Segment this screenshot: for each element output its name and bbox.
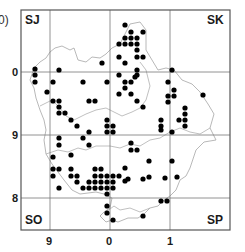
record-dot [182,117,187,122]
record-dot [110,173,115,178]
record-dot [122,41,127,46]
record-dot [80,135,85,140]
record-dot [110,179,115,184]
record-dot [92,185,97,190]
record-dot [140,54,145,59]
record-dot [92,98,97,103]
record-dot [134,35,139,40]
record-dot [56,135,61,140]
record-dot [98,179,103,184]
record-dot [92,166,97,171]
record-dot [50,173,55,178]
record-dot [165,99,170,104]
inner-boundary [46,128,210,154]
record-dot [116,91,121,96]
record-dot [68,166,73,171]
x-axis-label-9: 9 [46,235,52,247]
record-dot [104,185,109,190]
record-dot [50,166,55,171]
record-dot [116,41,121,46]
partial-label: 0) [0,13,9,27]
record-dot [140,176,145,181]
record-dot [122,35,127,40]
record-dot [134,98,139,103]
record-dot [128,91,133,96]
record-dot [128,79,133,84]
record-dot [122,165,127,170]
grid-square-label-so: SO [25,213,42,227]
record-dot [158,198,163,203]
record-dot [68,117,73,122]
record-dot [62,110,67,115]
record-dot [128,140,133,145]
record-dot [68,152,73,157]
record-dots [32,22,205,222]
record-dot [134,54,139,59]
record-dot [92,173,97,178]
record-dot [146,174,151,179]
record-dot [134,41,139,46]
record-dot [128,147,133,152]
record-dot [99,60,104,65]
record-dot [169,67,174,72]
record-dot [104,203,109,208]
record-dot [110,129,115,134]
record-dot [158,127,163,132]
record-dot [104,179,109,184]
record-dot [104,210,109,215]
record-dot [56,104,61,109]
record-dot [104,117,109,122]
record-dot [98,166,103,171]
record-dot [116,54,121,59]
record-dot [50,154,55,159]
record-dot [182,123,187,128]
grid-square-label-sp: SP [207,213,223,227]
record-dot [32,66,37,71]
record-dot [122,60,127,65]
record-dot [104,191,109,196]
record-dot [165,93,170,98]
record-dot [86,179,91,184]
record-dot [32,72,37,77]
record-dot [116,72,121,77]
record-dot [122,178,127,183]
record-dot [146,158,151,163]
record-dot [122,79,127,84]
record-dot [132,74,137,79]
record-dot [128,35,133,40]
grid-square-label-sj: SJ [25,13,40,27]
x-axis-label-0: 0 [106,235,112,247]
grid-square-label-sk: SK [207,13,224,27]
record-dot [140,29,145,34]
record-dot [182,111,187,116]
record-dot [165,79,170,84]
record-dot [171,93,176,98]
y-axis-label-9: 9 [12,129,18,141]
record-dot [128,41,133,46]
record-dot [169,158,174,163]
record-dot [176,117,181,122]
distribution-map: 0) SJ SK SO SP 0 9 8 9 0 1 [0,0,245,252]
record-dot [162,175,167,180]
record-dot [68,173,73,178]
record-dot [134,47,139,52]
record-dot [164,198,169,203]
record-dot [110,123,115,128]
record-dot [80,79,85,84]
record-dot [134,67,139,72]
record-dot [56,142,61,147]
record-dot [98,185,103,190]
record-dot [86,185,91,190]
record-dot [171,87,176,92]
record-dot [140,104,145,109]
record-dot [50,98,55,103]
record-dot [56,166,61,171]
record-dot [56,185,61,190]
record-dot [104,79,109,84]
record-dot [110,185,115,190]
record-dot [122,22,127,27]
record-dot [92,179,97,184]
record-dot [50,79,55,84]
y-axis-label-0: 0 [12,66,18,78]
record-dot [140,213,145,218]
